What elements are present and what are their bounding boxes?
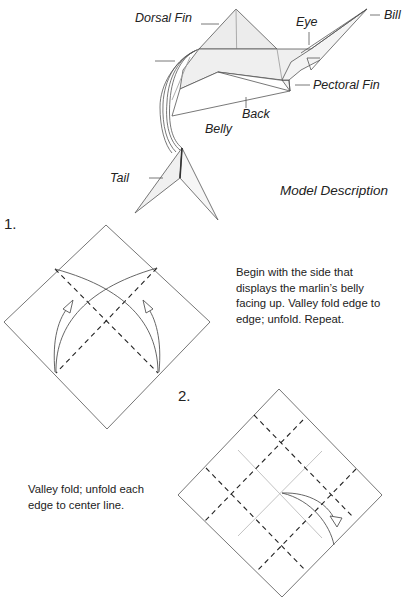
step-1-line: displays the marlin’s belly <box>236 281 380 297</box>
step-2-diagram <box>178 389 382 597</box>
step-2-line: edge to center line. <box>28 498 144 514</box>
arrow-head-icon <box>143 300 153 313</box>
step-2-instructions: Valley fold; unfold each edge to center … <box>28 482 144 513</box>
step-1-line: edge; unfold. Repeat. <box>236 312 380 328</box>
tail-shape <box>135 148 182 213</box>
head-shape <box>282 9 367 80</box>
step-1-instructions: Begin with the side that displays the ma… <box>236 265 380 327</box>
step-1-number: 1. <box>4 216 17 231</box>
step-1-line: Begin with the side that <box>236 265 380 281</box>
label-eye: Eye <box>296 16 318 29</box>
label-bill: Bill <box>384 9 401 22</box>
label-dorsal-fin: Dorsal Fin <box>135 12 192 25</box>
model-description-caption: Model Description <box>280 184 388 198</box>
label-tail: Tail <box>110 172 129 185</box>
label-back: Back <box>242 108 270 121</box>
arrow-head-icon <box>63 300 73 313</box>
step-1-line: facing up. Valley fold edge to <box>236 296 380 312</box>
label-pectoral-fin: Pectoral Fin <box>313 79 380 92</box>
step-2-number: 2. <box>178 388 191 403</box>
label-belly: Belly <box>205 123 232 136</box>
step-2-line: Valley fold; unfold each <box>28 482 144 498</box>
dorsal-fin-shape <box>199 9 277 49</box>
arrow-head-icon <box>330 516 342 527</box>
